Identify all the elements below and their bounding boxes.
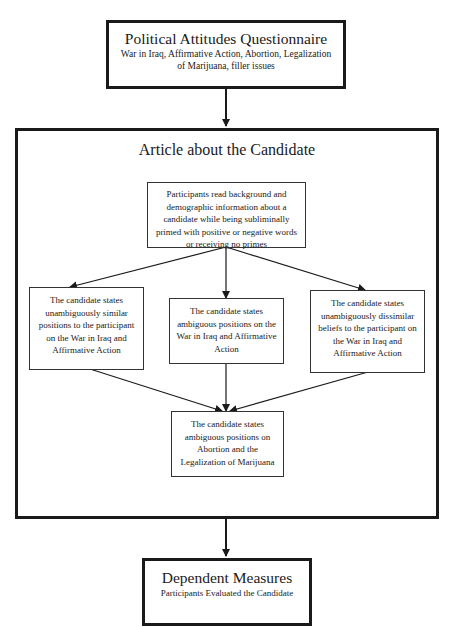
intro-box: Participants read background and demogra…	[147, 182, 306, 248]
questionnaire-subtitle: War in Iraq, Affirmative Action, Abortio…	[109, 48, 343, 72]
condition-ambiguous-text: The candidate states ambiguous positions…	[176, 306, 276, 354]
condition-similar-text: The candidate states unambiguously simil…	[39, 295, 135, 355]
dependent-measures-box: Dependent Measures Participants Evaluate…	[142, 558, 312, 626]
final-ambiguous-box: The candidate states ambiguous positions…	[171, 411, 284, 477]
final-ambiguous-text: The candidate states ambiguous positions…	[181, 419, 275, 467]
dependent-measures-subtitle: Participants Evaluated the Candidate	[145, 587, 309, 599]
article-title: Article about the Candidate	[18, 141, 436, 159]
dependent-measures-title: Dependent Measures	[145, 569, 309, 587]
condition-ambiguous-box: The candidate states ambiguous positions…	[169, 298, 284, 364]
condition-dissimilar-box: The candidate states unambiguously dissi…	[310, 290, 425, 373]
questionnaire-title: Political Attitudes Questionnaire	[109, 30, 343, 48]
questionnaire-box: Political Attitudes Questionnaire War in…	[106, 20, 346, 89]
condition-dissimilar-text: The candidate states unambiguously dissi…	[318, 298, 416, 358]
condition-similar-box: The candidate states unambiguously simil…	[29, 287, 144, 370]
intro-text: Participants read background and demogra…	[156, 189, 297, 249]
